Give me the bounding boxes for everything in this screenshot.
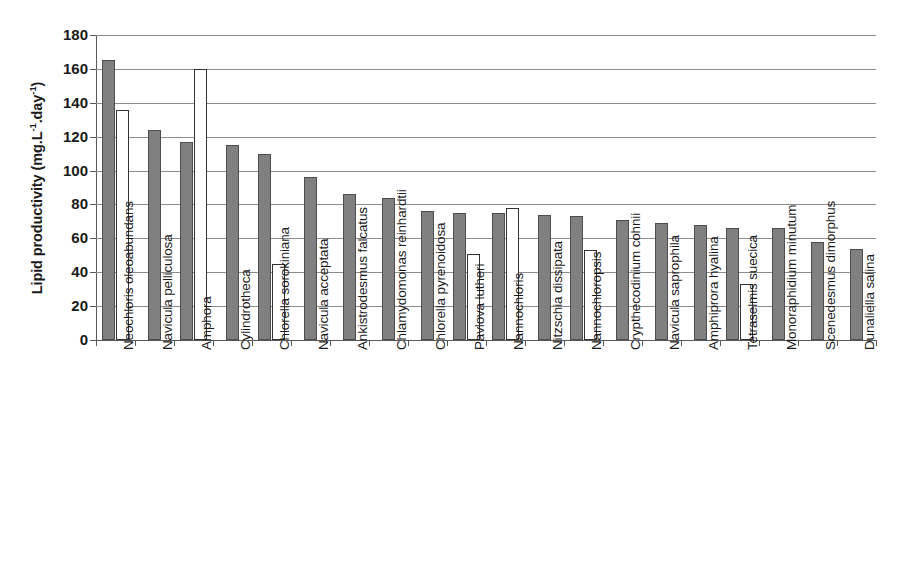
x-tick-mark bbox=[96, 341, 97, 346]
x-axis-label: Navicula saprophila bbox=[668, 235, 682, 350]
x-axis-label: Scenedesmus dimorphus bbox=[824, 201, 838, 350]
x-tick-mark bbox=[486, 341, 487, 346]
x-axis-label: Chlorella sorokiniana bbox=[278, 227, 292, 350]
y-tick-mark bbox=[90, 103, 96, 104]
x-axis-label: Dunaliella salina bbox=[863, 254, 877, 350]
x-tick-mark bbox=[447, 341, 448, 346]
x-tick-mark bbox=[135, 341, 136, 346]
x-axis-labels: Neochloris oleoabundansNavicula pellicul… bbox=[0, 0, 901, 577]
x-tick-mark bbox=[681, 341, 682, 346]
x-axis-label: Nannochloropsis bbox=[590, 252, 604, 350]
y-tick-mark bbox=[90, 35, 96, 36]
y-tick-mark bbox=[90, 306, 96, 307]
y-tick-mark bbox=[90, 204, 96, 205]
x-axis-label: Amphiprora hyalina bbox=[707, 236, 721, 350]
x-tick-mark bbox=[330, 341, 331, 346]
x-tick-mark bbox=[720, 341, 721, 346]
x-axis-label: Monoraphidium minutum bbox=[785, 205, 799, 350]
x-tick-mark bbox=[798, 341, 799, 346]
x-axis-label: Chlorella pyrenoidosa bbox=[434, 223, 448, 350]
x-tick-mark bbox=[642, 341, 643, 346]
x-tick-mark bbox=[291, 341, 292, 346]
y-tick-mark bbox=[90, 171, 96, 172]
y-tick-mark bbox=[90, 272, 96, 273]
x-axis-label: Nitzschia dissipata bbox=[551, 241, 565, 350]
x-axis-label: Pavlova lutheri bbox=[473, 264, 487, 350]
x-tick-mark bbox=[564, 341, 565, 346]
y-tick-mark bbox=[90, 238, 96, 239]
x-axis-label: Crypthecodinium cohnii bbox=[629, 213, 643, 350]
x-axis-label: Tetraselmis suecica bbox=[746, 235, 760, 350]
x-axis-label: Ankistrodesmus falcatus bbox=[356, 207, 370, 350]
bar-chart: Lipid productivity (mg.L-1.day-1) 180160… bbox=[0, 0, 901, 577]
x-tick-mark bbox=[252, 341, 253, 346]
x-tick-mark bbox=[603, 341, 604, 346]
x-axis-label: Neochloris oleoabundans bbox=[122, 201, 136, 350]
x-axis-label: Amphora bbox=[200, 296, 214, 350]
x-axis-label: Navicula pelliculosa bbox=[161, 234, 175, 350]
x-tick-mark bbox=[174, 341, 175, 346]
x-tick-mark bbox=[837, 341, 838, 346]
x-tick-mark bbox=[369, 341, 370, 346]
x-axis-label: Cylindrotheca bbox=[239, 269, 253, 350]
x-axis-label: Nannochloris bbox=[512, 273, 526, 350]
x-tick-mark bbox=[408, 341, 409, 346]
y-tick-mark bbox=[90, 137, 96, 138]
y-tick-mark bbox=[90, 69, 96, 70]
x-tick-mark bbox=[525, 341, 526, 346]
x-tick-mark bbox=[876, 341, 877, 346]
x-tick-mark bbox=[213, 341, 214, 346]
x-axis-label: Chlamydomonas reinhardtii bbox=[395, 189, 409, 350]
x-tick-mark bbox=[759, 341, 760, 346]
x-axis-label: Navicula acceptata bbox=[317, 239, 331, 350]
